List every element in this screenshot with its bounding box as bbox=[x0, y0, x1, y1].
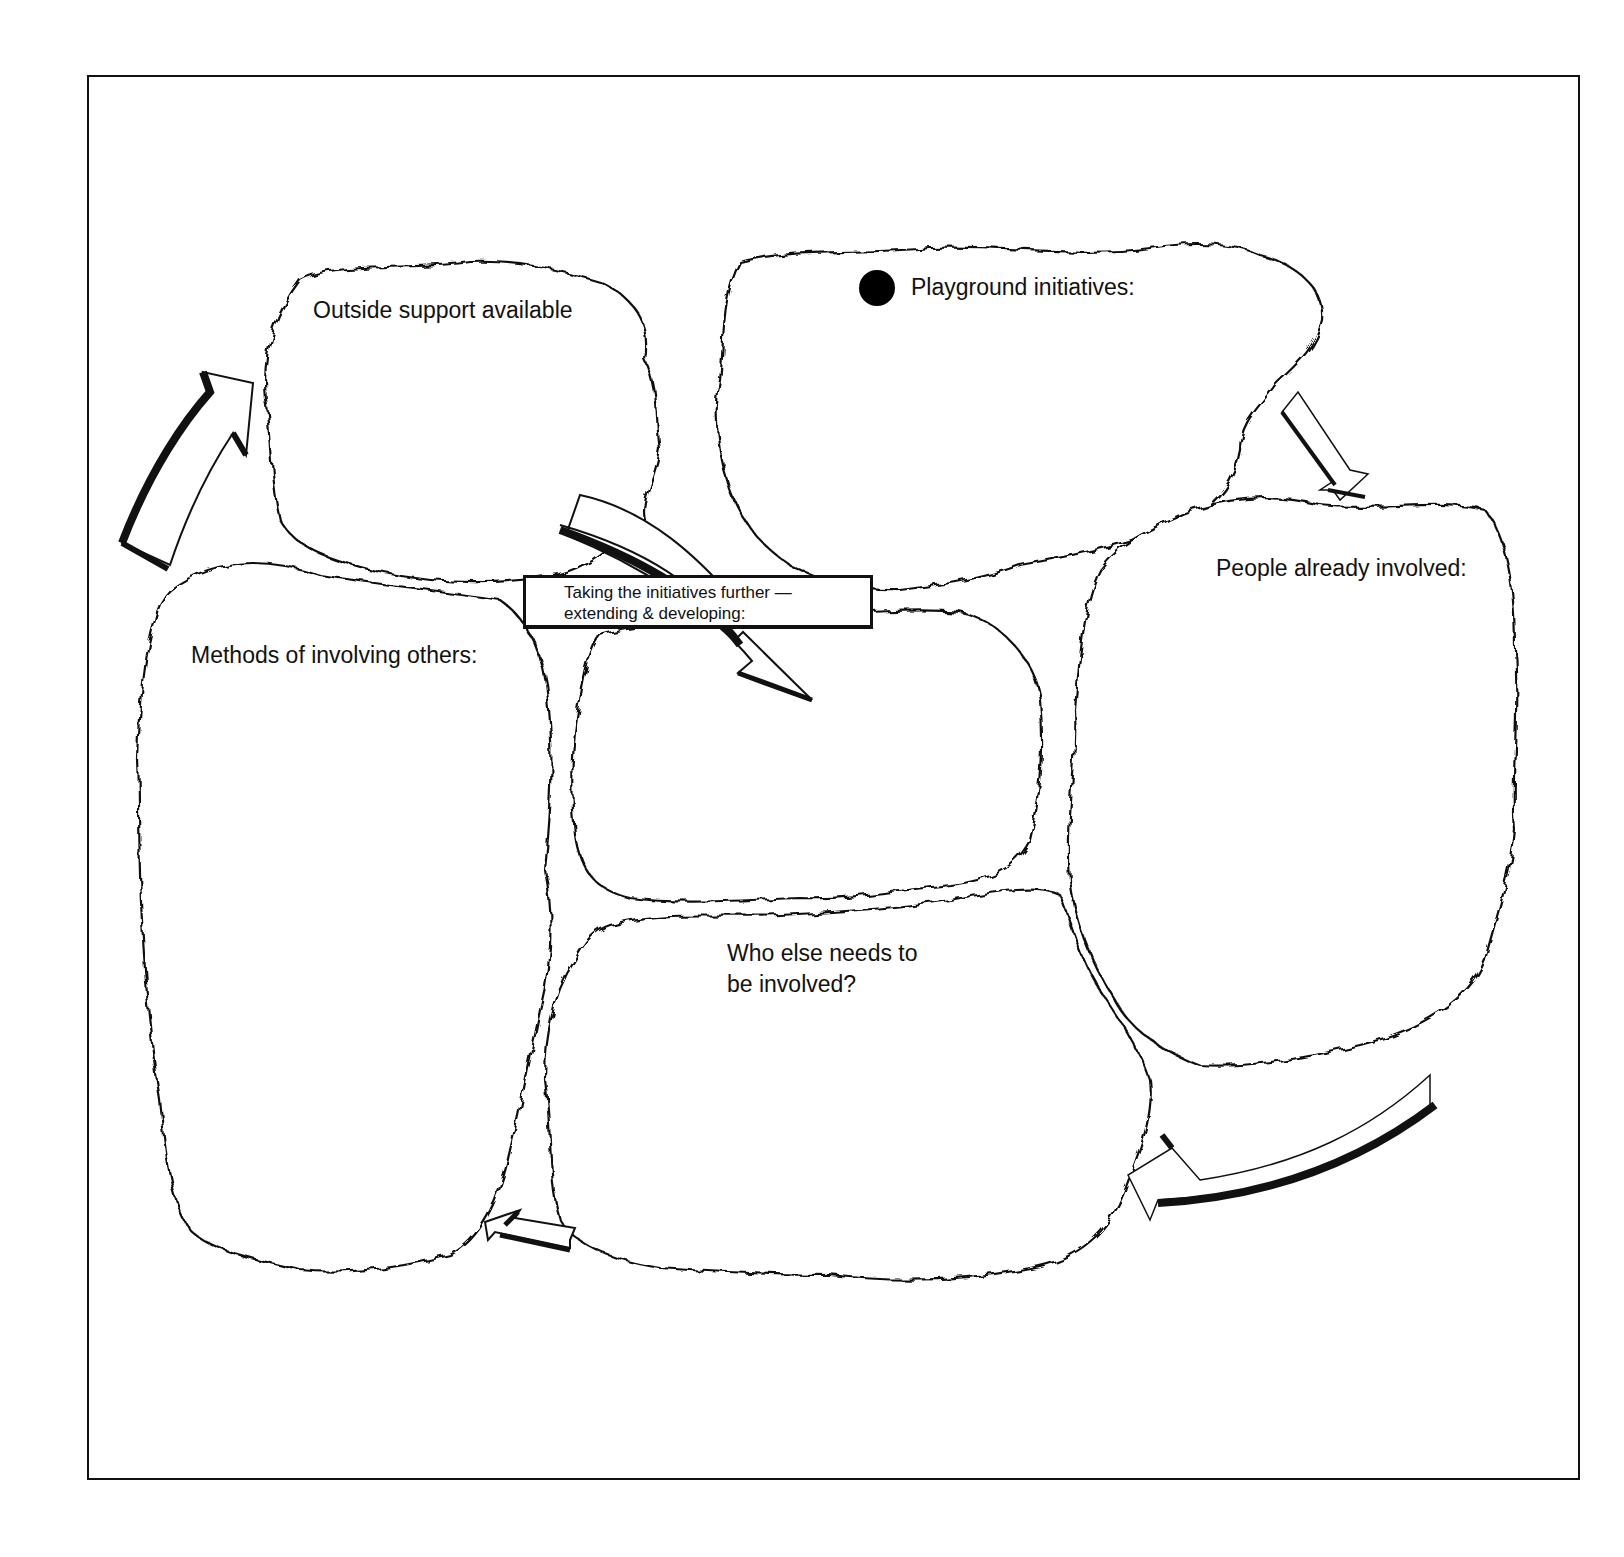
cloud-taking-further[interactable] bbox=[572, 610, 1042, 901]
title-box-line1: Taking the initiatives further — bbox=[564, 582, 870, 603]
title-box-taking-further: Taking the initiatives further — extendi… bbox=[523, 575, 873, 629]
diagram-canvas bbox=[0, 0, 1624, 1557]
arrow-methods-to-outside bbox=[122, 372, 253, 569]
label-who-else-line2: be involved? bbox=[727, 969, 856, 1000]
title-box-line2: extending & developing: bbox=[564, 603, 870, 624]
label-who-else-line1: Who else needs to bbox=[727, 938, 918, 969]
arrow-playground-to-people bbox=[1282, 392, 1368, 500]
label-methods-involving: Methods of involving others: bbox=[191, 640, 477, 671]
arrow-people-to-who-else bbox=[1128, 1075, 1435, 1220]
bullet-icon bbox=[859, 270, 895, 306]
label-people-already-involved: People already involved: bbox=[1216, 553, 1467, 584]
label-outside-support: Outside support available bbox=[313, 295, 573, 326]
label-playground-initiatives: Playground initiatives: bbox=[911, 272, 1135, 303]
